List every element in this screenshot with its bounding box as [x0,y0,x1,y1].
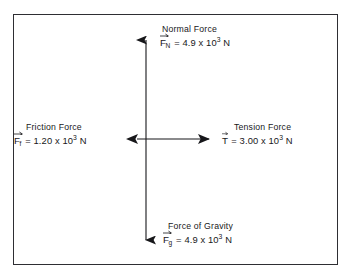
normal-force-label: Normal Force FN = 4.9 x 103 N [160,24,230,51]
tension-force-exponent: 3 [279,134,283,141]
normal-force-title: Normal Force [162,24,230,35]
tension-force-coefficient: 3.00 [240,135,259,146]
normal-force-equation: FN = 4.9 x 103 N [160,36,230,51]
normal-force-exponent: 3 [217,36,221,43]
vector-arrow-icon [163,230,172,234]
force-of-gravity-equation: Fg = 4.9 x 103 N [163,233,233,248]
force-of-gravity-base: 10 [208,234,219,245]
tension-force-equals: = [231,135,237,146]
friction-force-coefficient: 1.20 [34,135,53,146]
friction-force-equation: Ff = 1.20 x 103 N [14,134,87,149]
friction-force-vector-symbol: Ff [14,135,22,149]
tension-force-times: x [261,135,266,146]
friction-force-exponent: 3 [73,134,77,141]
tension-force-unit: N [286,135,293,146]
vector-arrow-icon [14,131,23,135]
normal-force-unit: N [223,37,230,48]
normal-force-vector-symbol: FN [160,37,170,51]
tension-force-title: Tension Force [234,122,293,133]
force-of-gravity-label: Force of Gravity Fg = 4.9 x 103 N [163,221,233,248]
force-of-gravity-vector-symbol: Fg [163,234,172,248]
normal-force-subscript: N [166,42,171,49]
force-of-gravity-unit: N [225,234,232,245]
force-of-gravity-subscript: g [169,239,173,246]
tension-force-base: 10 [269,135,280,146]
tension-force-equation: T = 3.00 x 103 N [222,134,293,149]
tension-force-symbol: T [222,135,228,146]
force-of-gravity-equals: = [176,234,182,245]
normal-force-base: 10 [206,37,217,48]
normal-force-equals: = [174,37,180,48]
normal-force-coefficient: 4.9 [182,37,195,48]
tension-force-label: Tension Force T = 3.00 x 103 N [222,122,293,149]
friction-force-subscript: f [20,140,22,147]
vector-arrow-icon [160,33,169,37]
normal-force-times: x [199,37,204,48]
friction-force-label: Friction Force Ff = 1.20 x 103 N [14,122,87,149]
friction-force-equals: = [25,135,31,146]
force-of-gravity-times: x [200,234,205,245]
vector-arrow-icon [222,131,229,135]
tension-force-vector-symbol: T [222,135,228,149]
force-of-gravity-title: Force of Gravity [168,221,233,232]
friction-force-title: Friction Force [26,122,87,133]
force-of-gravity-exponent: 3 [219,233,223,240]
friction-force-unit: N [80,135,87,146]
friction-force-base: 10 [62,135,73,146]
friction-force-times: x [55,135,60,146]
force-of-gravity-coefficient: 4.9 [184,234,197,245]
